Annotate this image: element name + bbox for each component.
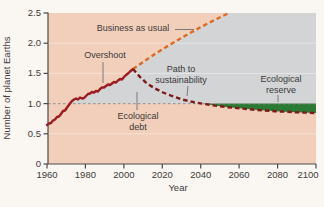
ytick-1-5: 1.5 — [28, 67, 41, 78]
overshoot-label: Overshoot — [84, 50, 126, 60]
ytick-0-5: 0.5 — [28, 128, 41, 139]
xtick-2080: 2080 — [267, 169, 288, 180]
ecological-debt-label-line1: Ecological — [117, 111, 158, 121]
xtick-1980: 1980 — [75, 169, 96, 180]
ytick-0: 0 — [36, 158, 41, 169]
xtick-2020: 2020 — [152, 169, 173, 180]
ecological-footprint-chart: 2.5 2.0 1.5 1.0 0.5 0 1960 1980 2000 202… — [0, 0, 324, 207]
ytick-2-5: 2.5 — [28, 7, 41, 18]
xtick-2060: 2060 — [229, 169, 250, 180]
xtick-1960: 1960 — [36, 169, 57, 180]
xtick-2100: 2100 — [297, 169, 318, 180]
xtick-2000: 2000 — [113, 169, 134, 180]
chart-svg: 2.5 2.0 1.5 1.0 0.5 0 1960 1980 2000 202… — [0, 0, 324, 207]
x-tick-labels: 1960 1980 2000 2020 2040 2060 2080 2100 — [36, 169, 318, 180]
ytick-1-0: 1.0 — [28, 98, 41, 109]
xtick-2040: 2040 — [190, 169, 211, 180]
y-axis-title: Number of planet Earths — [1, 36, 12, 139]
business-as-usual-label: Business as usual — [97, 23, 170, 33]
ytick-2-0: 2.0 — [28, 37, 41, 48]
path-to-sustainability-label-line2: sustainability — [155, 75, 207, 85]
path-to-sustainability-label-line1: Path to — [167, 64, 196, 74]
ecological-reserve-label-line2: reserve — [266, 85, 296, 95]
ecological-debt-label-line2: debt — [129, 122, 147, 132]
y-tick-labels: 2.5 2.0 1.5 1.0 0.5 0 — [28, 7, 41, 169]
x-axis-title: Year — [168, 182, 187, 193]
ecological-reserve-label-line1: Ecological — [260, 74, 301, 84]
